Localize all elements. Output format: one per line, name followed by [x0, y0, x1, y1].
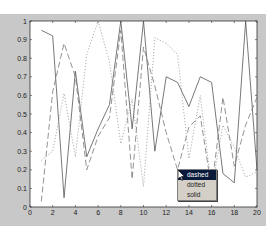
- y-tick-label: 0.4: [17, 129, 27, 136]
- mouse-cursor-icon: [178, 170, 186, 181]
- line-chart[interactable]: 0246810121416182000.10.20.30.40.50.60.70…: [0, 14, 266, 226]
- y-tick-label: 1: [23, 18, 27, 25]
- y-tick-label: 0.6: [17, 92, 27, 99]
- menu-item-dotted[interactable]: dotted: [178, 180, 216, 190]
- y-tick-label: 0.5: [17, 111, 27, 118]
- y-tick-label: 0.9: [17, 36, 27, 43]
- x-tick-label: 2: [51, 209, 55, 216]
- figure-window: 0246810121416182000.10.20.30.40.50.60.70…: [0, 14, 266, 226]
- x-tick-label: 14: [185, 209, 193, 216]
- x-tick-label: 8: [119, 209, 123, 216]
- x-tick-label: 0: [28, 209, 32, 216]
- x-tick-label: 18: [230, 209, 238, 216]
- x-tick-label: 6: [96, 209, 100, 216]
- menu-item-solid[interactable]: solid: [178, 190, 216, 200]
- y-tick-label: 0.1: [17, 185, 27, 192]
- x-tick-label: 4: [73, 209, 77, 216]
- x-tick-label: 16: [208, 209, 216, 216]
- x-tick-label: 12: [162, 209, 170, 216]
- y-tick-label: 0.8: [17, 55, 27, 62]
- y-tick-label: 0: [23, 204, 27, 211]
- x-tick-label: 10: [140, 209, 148, 216]
- y-tick-label: 0.2: [17, 166, 27, 173]
- y-tick-label: 0.3: [17, 148, 27, 155]
- y-tick-label: 0.7: [17, 73, 27, 80]
- x-tick-label: 20: [253, 209, 261, 216]
